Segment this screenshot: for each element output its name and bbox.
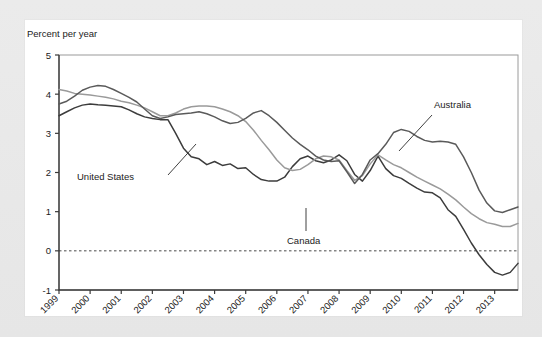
annotation-leader-line	[168, 144, 196, 175]
y-tick-label: 3	[46, 128, 51, 139]
x-tick-label: 2008	[318, 293, 341, 316]
y-tick-label: -1	[43, 285, 51, 296]
series-line-united-states	[59, 104, 518, 275]
y-tick-label: 1	[46, 206, 51, 217]
annotation-leader-line	[399, 115, 432, 151]
x-tick-label: 2006	[256, 293, 279, 316]
x-tick-label: 2005	[224, 293, 247, 316]
x-tick-label: 2003	[162, 293, 185, 316]
y-tick-label: 4	[46, 89, 51, 100]
series-label-canada: Canada	[287, 235, 321, 246]
x-tick-label: 2010	[380, 293, 403, 316]
x-tick-label: 2011	[412, 293, 434, 315]
chart-svg: 543210-1 1999200020012002200320042005200…	[25, 20, 522, 316]
x-tick-label: 2000	[69, 293, 92, 316]
series-label-australia: Australia	[434, 99, 472, 110]
y-axis-ticks: 543210-1	[43, 50, 59, 296]
x-tick-label: 2004	[193, 293, 216, 316]
y-tick-label: 2	[46, 167, 51, 178]
y-tick-label: 0	[46, 245, 51, 256]
x-tick-label: 2009	[349, 293, 372, 316]
x-tick-label: 2007	[287, 293, 310, 316]
x-tick-label: 2002	[131, 293, 154, 316]
x-tick-label: 2013	[473, 293, 496, 316]
x-axis-ticks: 1999200020012002200320042005200620072008…	[38, 290, 496, 315]
chart-card: 543210-1 1999200020012002200320042005200…	[25, 20, 522, 316]
line-chart: 543210-1 1999200020012002200320042005200…	[25, 20, 522, 316]
x-tick-label: 2012	[442, 293, 465, 316]
y-axis-title: Percent per year	[27, 28, 97, 39]
x-tick-label: 1999	[38, 293, 61, 316]
y-tick-label: 5	[46, 50, 51, 61]
x-tick-label: 2001	[100, 293, 123, 316]
page-root: 543210-1 1999200020012002200320042005200…	[0, 0, 542, 337]
series-label-united-states: United States	[77, 171, 134, 182]
